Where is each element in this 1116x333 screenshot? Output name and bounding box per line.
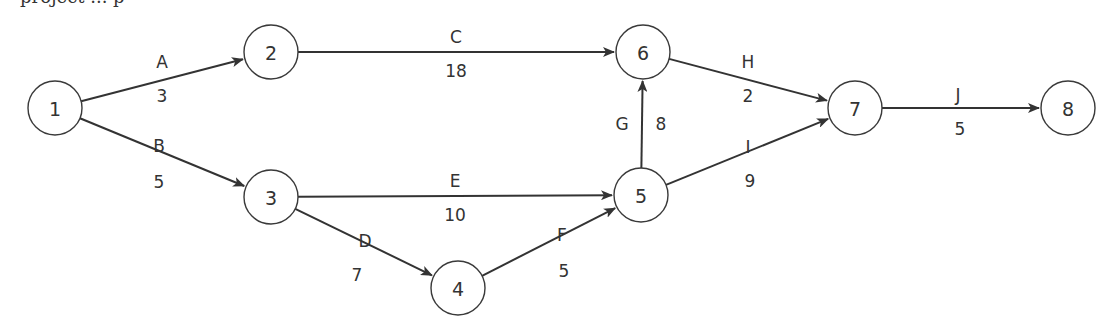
duration-label-b: 5 [154,172,165,192]
node-label: 6 [637,42,649,64]
node-4: 4 [431,261,485,315]
node-label: 4 [452,278,464,300]
activity-label-e: E [450,171,461,191]
activity-label-g: G [615,114,628,134]
edge-arrow-e [298,195,612,197]
node-2: 2 [244,25,298,79]
node-label: 1 [49,98,61,120]
activity-label-d: D [358,231,371,251]
duration-label-j: 5 [955,119,966,139]
node-label: 3 [265,187,277,209]
activity-label-j: J [954,85,960,105]
activity-label-f: F [557,225,567,245]
edge-arrow-g [641,81,642,168]
activity-label-h: H [742,52,755,72]
node-1: 1 [28,81,82,135]
node-label: 8 [1062,98,1074,120]
node-label: 2 [265,42,277,64]
edge-arrow-f [482,208,615,276]
duration-label-d: 7 [352,265,363,285]
node-6: 6 [616,25,670,79]
network-diagram: 12345678 A3B5C18D7E10F5G8H2I9J5 [0,0,1116,333]
activity-label-c: C [450,27,462,47]
duration-label-i: 9 [745,171,756,191]
node-8: 8 [1041,81,1095,135]
duration-label-c: 18 [445,61,467,81]
activity-label-a: A [156,52,168,72]
duration-label-g: 8 [656,114,667,134]
duration-label-f: 5 [559,261,570,281]
node-7: 7 [828,81,882,135]
node-label: 5 [635,185,647,207]
duration-label-e: 10 [444,205,466,225]
node-label: 7 [849,98,861,120]
duration-label-h: 2 [743,86,754,106]
node-3: 3 [244,170,298,224]
activity-label-i: I [745,137,750,157]
activity-label-b: B [153,136,165,156]
duration-label-a: 3 [157,86,168,106]
node-5: 5 [614,168,668,222]
